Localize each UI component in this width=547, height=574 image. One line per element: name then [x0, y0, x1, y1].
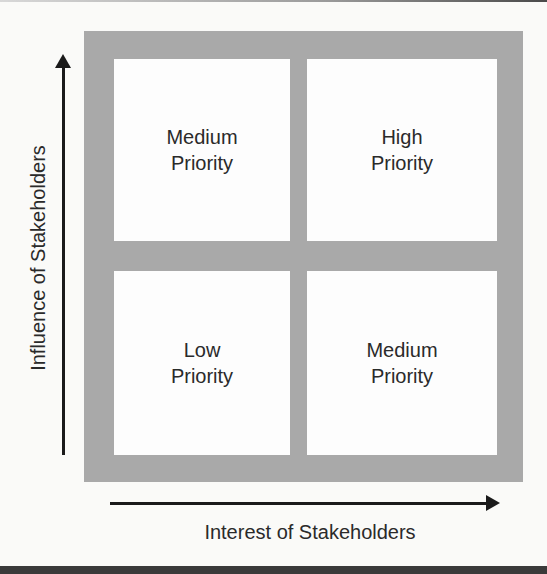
y-axis-arrow — [62, 66, 65, 455]
quadrant-label-line2: Priority — [171, 363, 233, 389]
quadrant-label-line2: Priority — [366, 363, 437, 389]
arrow-right-icon — [486, 495, 500, 511]
quadrant-top-right: High Priority — [307, 59, 497, 241]
quadrant-top-left: Medium Priority — [114, 59, 290, 241]
quadrant-label-line2: Priority — [371, 150, 433, 176]
quadrant-label: Medium Priority — [366, 337, 437, 389]
y-axis-label: Influence of Stakeholders — [25, 108, 51, 408]
quadrant-label-line1: Medium — [166, 124, 237, 150]
quadrant-label-line1: Medium — [366, 337, 437, 363]
bottom-border-rule — [0, 566, 547, 574]
quadrant-label-line1: Low — [171, 337, 233, 363]
quadrant-label-line1: High — [371, 124, 433, 150]
matrix-frame: Medium Priority High Priority Low Priori… — [84, 31, 523, 482]
quadrant-label: Low Priority — [171, 337, 233, 389]
quadrant-label-line2: Priority — [166, 150, 237, 176]
quadrant-label: High Priority — [371, 124, 433, 176]
quadrant-bottom-right: Medium Priority — [307, 271, 497, 455]
top-border-rule — [0, 0, 547, 2]
quadrant-label: Medium Priority — [166, 124, 237, 176]
x-axis-arrow — [110, 502, 488, 505]
quadrant-bottom-left: Low Priority — [114, 271, 290, 455]
x-axis-label: Interest of Stakeholders — [110, 519, 470, 545]
